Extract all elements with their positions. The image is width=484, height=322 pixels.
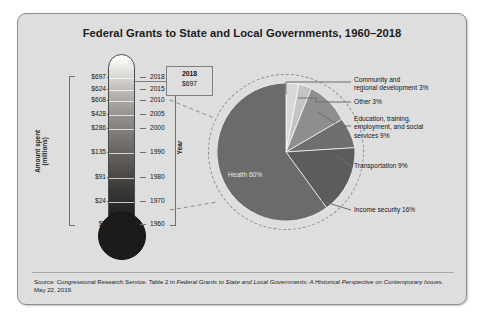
amount-label: $697 — [62, 73, 106, 80]
year-label: 2010 — [150, 96, 165, 103]
tube-divider — [109, 129, 134, 130]
year-tick — [140, 77, 146, 78]
tube-divider — [109, 90, 134, 91]
tube-divider — [109, 153, 134, 154]
thermometer-bulb — [98, 212, 146, 260]
year-label: 2018 — [150, 73, 165, 80]
tube-divider — [109, 78, 134, 79]
tube-divider — [109, 202, 134, 203]
year-tick — [140, 201, 146, 202]
pie-label-transportation: Transportation 9% — [354, 162, 408, 170]
amount-tick-labels: $697 $624 $608 $428 $286 $135 $91 $24 $7 — [32, 52, 106, 267]
pie-label-education-line3: services 9% — [354, 132, 423, 140]
year-tick — [140, 114, 146, 115]
year-label: 1960 — [150, 220, 165, 227]
year-tick — [140, 177, 146, 178]
source-title: Federal Grants to State and Local Govern… — [177, 278, 442, 285]
source-divider — [32, 272, 454, 273]
thermometer-tube — [108, 54, 135, 226]
year-label: 2005 — [150, 110, 165, 117]
pie-label-education: Education, training, employment, and soc… — [354, 115, 423, 140]
amount-label: $24 — [62, 197, 106, 204]
tube-divider — [109, 115, 134, 116]
thermometer-chart: Amount spent (millions) $697 $624 $608 $… — [18, 52, 193, 267]
year-tick — [140, 128, 146, 129]
year-tick — [140, 89, 146, 90]
pie-chart — [217, 83, 355, 221]
amount-label: $286 — [62, 124, 106, 131]
pie-label-community-line2: regional development 3% — [354, 84, 428, 92]
year-tick — [140, 152, 146, 153]
tube-divider — [109, 101, 134, 102]
year-tick — [140, 224, 146, 225]
amount-label: $91 — [62, 173, 106, 180]
pie-label-community: Community and regional development 3% — [354, 76, 428, 93]
year-label: 1990 — [150, 148, 165, 155]
year-label: 1980 — [150, 173, 165, 180]
year-tick — [140, 100, 146, 101]
pie-label-other: Other 3% — [354, 98, 382, 106]
year-label: 1970 — [150, 197, 165, 204]
pie-label-income-security: Income security 16% — [354, 206, 415, 214]
callout-connector-line — [135, 81, 166, 82]
pie-label-community-line1: Community and — [354, 76, 428, 84]
infographic-panel: Federal Grants to State and Local Govern… — [17, 13, 467, 305]
amount-label: $135 — [62, 148, 106, 155]
tube-divider — [109, 178, 134, 179]
amount-label: $608 — [62, 96, 106, 103]
year-axis-title: Year — [176, 133, 183, 163]
source-prefix: Source: Congressional Research Service. … — [34, 278, 177, 285]
pie-chart-group: Health 60% — [206, 72, 366, 232]
pie-label-health: Health 60% — [228, 171, 262, 178]
amount-label: $624 — [62, 85, 106, 92]
pie-label-education-line2: employment, and social — [354, 123, 423, 131]
year-label: 2015 — [150, 85, 165, 92]
pie-label-education-line1: Education, training, — [354, 115, 423, 123]
amount-label: $428 — [62, 110, 106, 117]
source-note: Source: Congressional Research Service. … — [34, 278, 454, 295]
year-label: 2000 — [150, 124, 165, 131]
page-title: Federal Grants to State and Local Govern… — [18, 27, 466, 39]
